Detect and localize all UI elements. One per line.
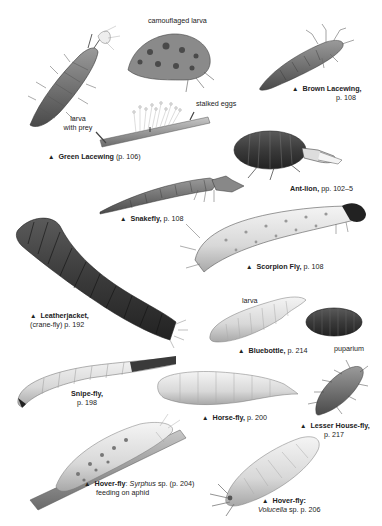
larva-with-prey-line-2: with prey: [58, 123, 98, 132]
green-lacewing-larva-illustration: [28, 26, 120, 127]
horse-fly-ref: p. 200: [245, 413, 267, 422]
snakefly-larva-illustration: [100, 176, 244, 214]
scorpion-fly-ref: p. 108: [301, 262, 323, 271]
ant-lion-ref: pp. 102–5: [319, 184, 353, 193]
leatherjacket-label: ▲Leatherjacket, (crane-fly) p. 192: [30, 311, 89, 329]
marker-triangle-icon: ▲: [30, 312, 36, 319]
larva-with-prey-label: larva with prey: [58, 114, 98, 132]
brown-lacewing-larva-illustration: [260, 24, 354, 90]
bluebottle-label: ▲Bluebottle, p. 214: [238, 346, 308, 355]
snakefly-name: Snakefly,: [130, 214, 161, 223]
leatherjacket-name: Leatherjacket,: [40, 311, 88, 320]
lesser-house-fly-larva-illustration: [308, 360, 368, 415]
green-lacewing-name: Green Lacewing: [58, 152, 114, 161]
horse-fly-larva-illustration: [158, 372, 298, 405]
snipe-fly-label: Snipe-fly, p. 198: [62, 389, 112, 407]
hover-fly-volucella-name: Hover-fly:: [272, 496, 306, 505]
marker-triangle-icon: ▲: [262, 497, 268, 504]
marker-triangle-icon: ▲: [120, 215, 126, 222]
lesser-house-fly-ref: p. 217: [300, 430, 370, 439]
marker-triangle-icon: ▲: [246, 263, 252, 270]
scorpion-fly-name: Scorpion Fly,: [256, 262, 301, 271]
brown-lacewing-name: Brown Lacewing,: [302, 84, 361, 93]
hover-fly-syrphus-genus: Syrphus: [130, 479, 156, 488]
stalked-eggs-label: stalked eggs: [196, 99, 236, 108]
hover-fly-volucella-genus: Volucella: [258, 505, 287, 514]
larva-with-prey-line-1: larva: [58, 114, 98, 123]
brown-lacewing-ref: p. 108: [292, 93, 362, 102]
green-lacewing-ref: (p. 106): [114, 152, 141, 161]
hover-fly-syrphus-note: feeding on aphid: [84, 488, 194, 497]
green-lacewing-label: ▲Green Lacewing (p. 106): [48, 152, 141, 161]
hover-fly-volucella-ref: sp. p. 206: [287, 505, 321, 514]
bluebottle-name: Bluebottle,: [248, 346, 285, 355]
snakefly-ref: p. 108: [161, 214, 183, 223]
ant-lion-name: Ant-lion,: [290, 184, 319, 193]
stalked-eggs-illustration: [96, 102, 210, 147]
marker-triangle-icon: ▲: [48, 153, 54, 160]
marker-triangle-icon: ▲: [84, 480, 90, 487]
scorpion-fly-label: ▲Scorpion Fly, p. 108: [246, 262, 323, 271]
snipe-fly-ref: p. 198: [62, 398, 112, 407]
hover-fly-syrphus-label: ▲Hover-fly: Syrphus sp. (p. 204) feeding…: [84, 479, 194, 497]
illustration-canvas: [0, 0, 382, 526]
lesser-house-fly-name: Lesser House-fly,: [310, 421, 369, 430]
hover-fly-syrphus-ref: sp. (p. 204): [156, 479, 194, 488]
snipe-fly-name: Snipe-fly,: [71, 389, 103, 398]
snakefly-label: ▲Snakefly, p. 108: [120, 214, 183, 223]
horse-fly-label: ▲Horse-fly, p. 200: [202, 413, 267, 422]
marker-triangle-icon: ▲: [292, 85, 298, 92]
bluebottle-ref: p. 214: [286, 346, 308, 355]
bluebottle-larva-illustration: [210, 297, 306, 342]
marker-triangle-icon: ▲: [300, 422, 306, 429]
leatherjacket-ref: (crane-fly) p. 192: [30, 320, 89, 329]
bluebottle-puparium-illustration: [306, 308, 362, 336]
camouflaged-larva-label: camouflaged larva: [148, 16, 207, 25]
lesser-house-fly-label: ▲Lesser House-fly, p. 217: [300, 421, 370, 439]
hover-fly-syrphus-name: Hover-fly: [94, 479, 125, 488]
marker-triangle-icon: ▲: [238, 347, 244, 354]
hover-fly-volucella-label: ▲Hover-fly: Volucella sp. p. 206: [262, 496, 320, 514]
ant-lion-larva-illustration: [234, 131, 342, 180]
horse-fly-name: Horse-fly,: [212, 413, 245, 422]
camouflaged-larva-illustration: [128, 34, 214, 92]
brown-lacewing-label: ▲Brown Lacewing, p. 108: [292, 84, 362, 102]
bluebottle-larva-label: larva: [242, 296, 258, 305]
ant-lion-label: Ant-lion, pp. 102–5: [290, 184, 353, 193]
marker-triangle-icon: ▲: [202, 414, 208, 421]
puparium-label: puparium: [334, 344, 364, 353]
